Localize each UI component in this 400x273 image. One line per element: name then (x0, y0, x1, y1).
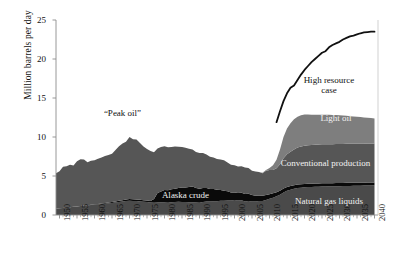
chart-plot-svg (0, 0, 400, 273)
y-tick-label: 20 (14, 55, 46, 64)
chart-figure: Million barrels per day 0510152025195019… (0, 0, 400, 273)
x-tick-label: 1985 (186, 204, 195, 221)
x-tick-label: 1975 (151, 204, 160, 221)
x-tick-label: 2010 (273, 204, 282, 221)
x-tick-label: 1990 (203, 204, 212, 221)
annotation-light-oil: Light oil (276, 113, 396, 123)
x-tick-label: 2040 (378, 204, 387, 221)
y-tick-label: 10 (14, 133, 46, 142)
y-tick-label: 25 (14, 16, 46, 25)
x-tick-label: 1995 (221, 204, 230, 221)
annotation-line-2: case (269, 85, 389, 95)
x-tick-label: 2000 (238, 204, 247, 221)
x-tick-label: 1980 (168, 204, 177, 221)
annotation-line-1: High resource (269, 75, 389, 85)
x-tick-label: 1955 (81, 204, 90, 221)
y-tick-label: 15 (14, 94, 46, 103)
x-tick-label: 2005 (256, 204, 265, 221)
annotation-natural-gas-liquids: Natural gas liquids (269, 196, 389, 206)
x-tick-label: 1970 (133, 204, 142, 221)
annotation-peak-oil: “Peak oil” (63, 108, 183, 118)
annotation-alaska-crude: Alaska crude (126, 190, 246, 200)
annotation-conventional-production: Conventional production (266, 158, 386, 168)
x-tick-label: 2020 (308, 204, 317, 221)
x-tick-label: 1950 (63, 204, 72, 221)
x-tick-label: 2030 (343, 204, 352, 221)
x-tick-label: 1965 (116, 204, 125, 221)
x-tick-label: 2025 (326, 204, 335, 221)
y-tick-label: 0 (14, 211, 46, 220)
y-tick-label: 5 (14, 172, 46, 181)
annotation-high-resource-case: High resourcecase (269, 75, 389, 95)
x-tick-label: 1960 (98, 204, 107, 221)
x-tick-label: 2015 (291, 204, 300, 221)
x-tick-label: 2035 (361, 204, 370, 221)
